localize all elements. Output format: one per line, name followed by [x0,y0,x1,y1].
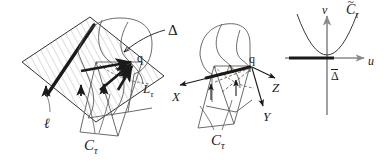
figure-vector-canvas [0,0,387,165]
leader-ell [46,94,50,112]
label-q-left: q [137,52,143,64]
panel-middle-graphics [180,24,275,130]
tilde-accent-icon: ~ [346,0,355,9]
label-C-tau-mid-base: C [211,132,221,148]
axis-Y[interactable] [252,68,263,106]
label-ell: ℓ [44,117,50,131]
label-L-tau-sub: τ [150,89,153,99]
label-delta-mid: Δ [226,63,234,75]
label-C-tau-left-base: C [84,137,94,153]
label-axis-X: X [172,90,180,103]
mid-tube-outline [200,24,250,72]
label-C-tilde-tau: ~C τ [346,3,359,20]
label-axis-u: u [368,55,374,67]
overline-accent-icon [331,69,338,70]
label-C-tilde-tau-sub: τ [355,10,358,20]
label-axis-v: v [322,4,327,16]
figure-container: Δ q Lτ ℓ Cτ q Δ X Z Y Cτ v ~C τ u Δ [0,0,387,165]
label-C-tilde-tau-base: ~C [346,3,355,17]
panel-right-graphics [285,14,364,115]
label-C-tau-left-sub: τ [94,145,98,156]
label-delta-left: Δ [168,23,178,38]
mid-cone-edge-a [198,66,250,128]
label-C-tau-mid-sub: τ [221,140,225,151]
label-axis-Y: Y [263,110,270,123]
label-C-tau-mid: Cτ [211,133,225,151]
label-C-tau-left: Cτ [84,138,98,156]
label-delta-bar-base: Δ [331,70,339,82]
mid-tube-left-edge [200,55,212,74]
axis-Z[interactable] [252,67,275,78]
label-L-tau: Lτ [143,82,153,98]
label-axis-Z: Z [272,81,279,94]
label-delta-bar: Δ [331,70,339,82]
axis-X[interactable] [180,67,252,85]
label-q-mid: q [249,53,255,65]
